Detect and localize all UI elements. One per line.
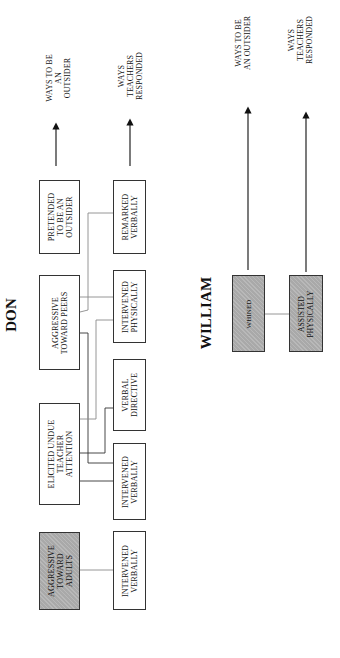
william-box-whined: WHINED — [232, 275, 265, 352]
don-legend-outsider: WAYS TO BE AN OUTSIDER — [42, 48, 74, 108]
william-title: WILLIAM — [196, 274, 216, 352]
william-box-assisted-physically: ASSISTED PHYSICALLY — [289, 275, 323, 352]
don-box-aggressive-adults: AGGRESSIVE TOWARD ADULTS — [39, 532, 80, 610]
don-box-elicited-attention: ELICITED UNDUE TEACHER ATTENTION — [39, 403, 80, 505]
don-legend-teachers: WAYS TEACHERS RESPONDED — [114, 46, 146, 106]
don-box-aggressive-peers: AGGRESSIVE TOWARD PEERS — [39, 275, 80, 370]
william-legend-teachers: WAYS TEACHERS RESPONDED — [284, 10, 316, 70]
don-box-intervened-physically: INTERVENED PHYSICALLY — [113, 270, 146, 343]
don-box-pretended-outsider: PRETENDED TO BE AN OUTSIDER — [39, 180, 80, 254]
don-box-intervened-verbally-mid: INTERVENED VERBALLY — [113, 443, 146, 520]
don-title: DON — [3, 296, 19, 334]
don-box-verbal-directive: VERBAL DIRECTIVE — [113, 359, 146, 431]
don-box-remarked-verbally: REMARKED VERBALLY — [113, 180, 146, 254]
don-box-intervened-verbally-bottom: INTERVENED VERBALLY — [113, 531, 146, 610]
william-legend-outsider: WAYS TO BE AN OUTSIDER — [230, 8, 256, 78]
